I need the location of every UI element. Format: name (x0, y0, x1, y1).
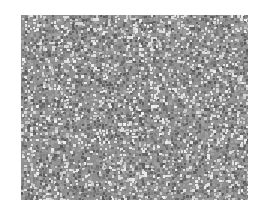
texture-image (21, 15, 248, 200)
